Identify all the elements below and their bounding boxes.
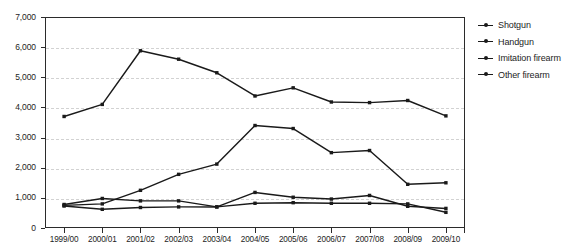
series-layer — [45, 17, 465, 228]
data-point — [291, 196, 294, 199]
y-tick-label: 2,000 — [15, 163, 36, 172]
y-tick-label: 1,000 — [15, 193, 36, 202]
series-line-handgun — [64, 51, 446, 117]
data-point — [291, 127, 294, 130]
data-point — [330, 197, 333, 200]
data-point — [62, 115, 65, 118]
y-tick-label: 0 — [31, 224, 36, 233]
line-marker-icon — [478, 54, 493, 63]
data-point — [177, 199, 180, 202]
x-tick-mark — [64, 228, 65, 233]
x-tick-label: 2007/08 — [355, 235, 384, 244]
data-point — [406, 99, 409, 102]
data-point — [139, 189, 142, 192]
data-point — [101, 208, 104, 211]
x-tick-mark — [408, 228, 409, 233]
data-point — [330, 202, 333, 205]
data-point — [215, 205, 218, 208]
data-point — [291, 201, 294, 204]
x-tick-mark — [331, 228, 332, 233]
x-tick-mark — [255, 228, 256, 233]
x-tick-mark — [446, 228, 447, 233]
legend-item-shotgun[interactable]: Shotgun — [478, 17, 582, 34]
y-axis: 01,0002,0003,0004,0005,0006,0007,000 — [0, 0, 45, 251]
line-marker-icon — [478, 70, 493, 79]
data-point — [444, 114, 447, 117]
x-tick-label: 2002/03 — [164, 235, 193, 244]
data-point — [139, 49, 142, 52]
data-point — [253, 124, 256, 127]
legend-label: Other firearm — [498, 70, 550, 80]
data-point — [253, 94, 256, 97]
x-tick-mark — [370, 228, 371, 233]
data-point — [62, 204, 65, 207]
data-point — [368, 202, 371, 205]
data-point — [139, 206, 142, 209]
legend-item-handgun[interactable]: Handgun — [478, 34, 582, 51]
x-tick-label: 2001/02 — [126, 235, 155, 244]
data-point — [101, 197, 104, 200]
legend: Shotgun Handgun Imitation firearm Other … — [478, 17, 582, 83]
legend-item-other-firearm[interactable]: Other firearm — [478, 67, 582, 84]
y-tick-label: 3,000 — [15, 133, 36, 142]
x-tick-label: 2006/07 — [317, 235, 346, 244]
data-point — [253, 202, 256, 205]
legend-label: Handgun — [498, 37, 534, 47]
data-point — [215, 162, 218, 165]
data-point — [215, 71, 218, 74]
data-point — [177, 205, 180, 208]
line-marker-icon — [478, 21, 493, 30]
data-point — [444, 211, 447, 214]
x-tick-mark — [464, 228, 465, 233]
x-tick-mark — [102, 228, 103, 233]
x-tick-label: 2004/05 — [241, 235, 270, 244]
data-point — [368, 149, 371, 152]
data-point — [253, 191, 256, 194]
legend-item-imitation-firearm[interactable]: Imitation firearm — [478, 50, 582, 67]
data-point — [330, 151, 333, 154]
x-tick-label: 2000/01 — [88, 235, 117, 244]
y-tick-label: 7,000 — [15, 13, 36, 22]
x-tick-label: 2005/06 — [279, 235, 308, 244]
data-point — [177, 173, 180, 176]
series-line-shotgun — [64, 192, 446, 208]
x-tick-mark — [217, 228, 218, 233]
data-point — [101, 103, 104, 106]
x-tick-label: 2008/09 — [393, 235, 422, 244]
data-point — [406, 183, 409, 186]
data-point — [291, 86, 294, 89]
x-tick-label: 2009/10 — [432, 235, 461, 244]
data-point — [177, 58, 180, 61]
line-marker-icon — [478, 37, 493, 46]
data-point — [444, 181, 447, 184]
legend-label: Shotgun — [498, 20, 531, 30]
y-tick-label: 5,000 — [15, 73, 36, 82]
x-tick-mark — [140, 228, 141, 233]
data-point — [444, 207, 447, 210]
y-tick-label: 4,000 — [15, 103, 36, 112]
data-point — [368, 101, 371, 104]
data-point — [139, 199, 142, 202]
x-tick-label: 2003/04 — [203, 235, 232, 244]
data-point — [101, 202, 104, 205]
x-axis: 1999/002000/012001/022002/032003/042004/… — [45, 228, 465, 251]
legend-label: Imitation firearm — [498, 53, 561, 63]
x-tick-mark — [293, 228, 294, 233]
data-point — [330, 100, 333, 103]
chart-figure: 01,0002,0003,0004,0005,0006,0007,000 199… — [0, 0, 582, 251]
y-tick-label: 6,000 — [15, 43, 36, 52]
data-point — [368, 194, 371, 197]
data-point — [406, 202, 409, 205]
x-tick-label: 1999/00 — [50, 235, 79, 244]
x-tick-mark — [179, 228, 180, 233]
